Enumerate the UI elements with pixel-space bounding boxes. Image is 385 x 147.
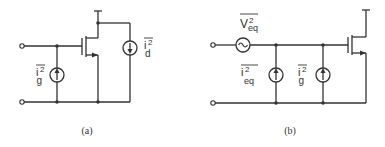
gate-noise-label-a: i 2 g: [36, 65, 45, 86]
input-terminal-bottom: [211, 101, 215, 105]
svg-text:eq: eq: [244, 76, 254, 86]
mosfet-transistor-icon: [82, 11, 98, 102]
noise-model-figure: i 2 g i 2 d (a): [0, 0, 385, 147]
junction-dot: [321, 101, 325, 105]
input-terminal-top: [20, 44, 24, 48]
drain-noise-label-a: i 2 d: [144, 38, 153, 59]
svg-text:2: 2: [40, 65, 45, 74]
current-noise-label-b: i 2 eq: [241, 65, 258, 86]
gate-noise-current-source-icon: [316, 68, 330, 82]
gate-noise-label-b: i 2 g: [298, 65, 307, 86]
svg-text:2: 2: [245, 65, 250, 74]
noise-voltage-source-icon: [236, 38, 250, 52]
junction-dot: [96, 100, 100, 104]
svg-text:2: 2: [302, 65, 307, 74]
panel-a-caption: (a): [81, 125, 92, 137]
svg-text:d: d: [145, 48, 151, 59]
input-terminal-bottom: [20, 100, 24, 104]
drain-noise-current-source-icon: [123, 41, 137, 55]
junction-dot: [96, 21, 100, 25]
junction-dot: [55, 100, 59, 104]
svg-text:2: 2: [148, 38, 153, 47]
input-terminal-top: [211, 43, 215, 47]
voltage-noise-label-b: V 2 eq: [240, 14, 258, 33]
svg-text:g: g: [37, 75, 43, 86]
junction-dot: [274, 43, 278, 47]
junction-dot: [55, 44, 59, 48]
equivalent-noise-current-source-icon: [269, 68, 283, 82]
gate-noise-current-source-icon: [50, 68, 64, 82]
panel-b-circuit: [211, 10, 370, 105]
junction-dot: [274, 101, 278, 105]
svg-text:eq: eq: [248, 23, 258, 33]
junction-dot: [321, 43, 325, 47]
mosfet-transistor-icon: [348, 10, 366, 103]
svg-text:g: g: [299, 75, 305, 86]
panel-a-circuit: [20, 11, 137, 104]
panel-b-caption: (b): [284, 125, 296, 137]
svg-text:V: V: [240, 17, 248, 31]
